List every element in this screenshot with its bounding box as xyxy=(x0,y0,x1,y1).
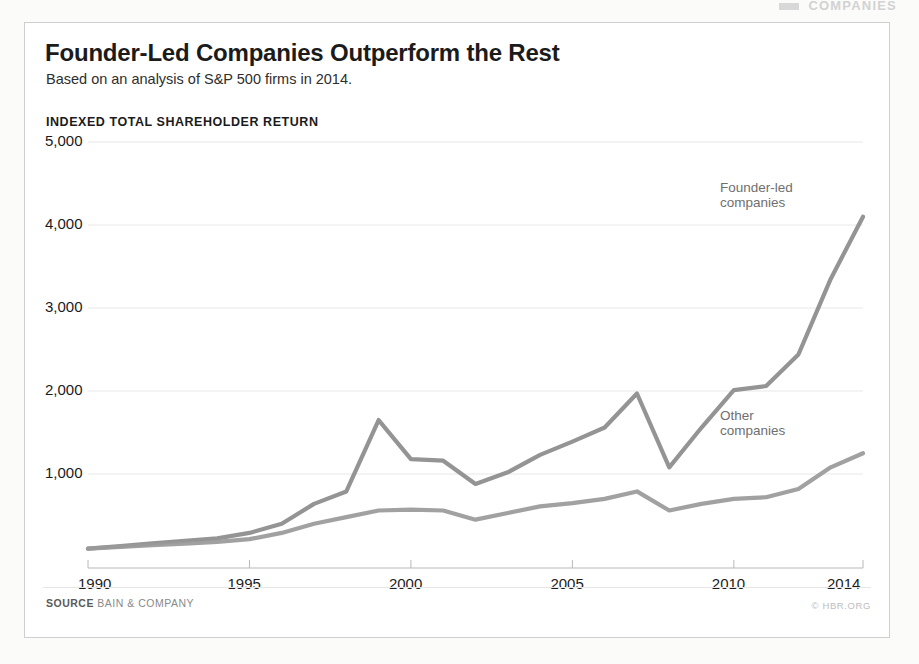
series-label-line: Founder-led xyxy=(720,180,793,195)
series-annotation-founder-led: Founder-ledcompanies xyxy=(720,180,793,210)
y-tick-label: 2,000 xyxy=(45,381,83,398)
x-tick-label: 2005 xyxy=(550,575,583,592)
y-tick-label: 5,000 xyxy=(45,132,83,149)
line-chart-svg xyxy=(25,23,891,639)
x-tick-label: 1990 xyxy=(78,575,111,592)
y-tick-label: 3,000 xyxy=(45,298,83,315)
x-tick-label: 1995 xyxy=(227,575,260,592)
y-tick-label: 1,000 xyxy=(45,464,83,481)
source-note: SOURCE BAIN & COMPANY xyxy=(46,597,194,609)
scan-header-text: COMPANIES xyxy=(808,0,897,13)
series-label-line: companies xyxy=(720,423,785,438)
scan-header-swatch xyxy=(779,3,799,10)
x-tick-label: 2014 xyxy=(827,575,860,592)
x-tick-label: 2000 xyxy=(389,575,422,592)
x-tick-label: 2010 xyxy=(712,575,745,592)
credit-note: © HBR.ORG xyxy=(812,600,871,611)
series-label-line: Other xyxy=(720,408,785,423)
scan-header-fragment: COMPANIES xyxy=(0,0,919,18)
y-tick-label: 4,000 xyxy=(45,215,83,232)
series-line-other xyxy=(88,453,863,548)
footer-divider xyxy=(43,587,871,588)
chart-plot-area: 1,0002,0003,0004,0005,000 19901995200020… xyxy=(25,23,891,639)
chart-card: Founder-Led Companies Outperform the Res… xyxy=(24,22,890,638)
source-label: SOURCE xyxy=(46,597,94,609)
series-label-line: companies xyxy=(720,195,793,210)
series-annotation-other: Othercompanies xyxy=(720,408,785,438)
source-name: BAIN & COMPANY xyxy=(97,597,194,609)
